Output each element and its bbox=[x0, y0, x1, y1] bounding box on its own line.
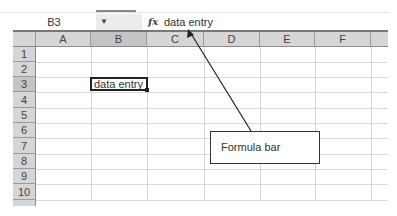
arrow-icon bbox=[0, 0, 397, 216]
